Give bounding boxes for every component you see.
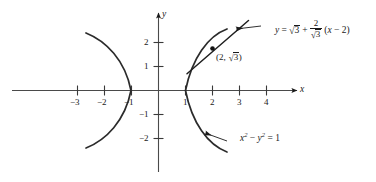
figure-canvas: −3 −2 −1 1 2 3 4 2 1 −1 −2 x y (2, √3) y… [0,0,376,182]
tangent-equals: = [282,25,287,35]
tangency-point-marker [210,46,215,51]
curve-minus: − [250,133,255,143]
curve-exponent-y: 2 [262,131,265,138]
point-radical-sign: √ [229,53,234,62]
y-tick-label--2: −2 [139,134,149,143]
tangent-frac-denominator: √3 [310,28,322,39]
x-tick-label--3: −3 [70,98,80,107]
point-x-value: 2, [219,52,226,62]
tangent-den-radical: √3 [311,29,321,39]
tangent-var-x: x [327,25,331,35]
x-tick-label-4: 4 [264,98,269,107]
tangent-lhs: y [275,25,279,35]
point-radical: √3 [229,52,239,62]
x-tick-label-2: 2 [210,98,215,107]
y-axis-label: y [162,10,166,20]
curve-equals-one: = 1 [267,133,279,143]
x-tick-label-3: 3 [237,98,242,107]
tangent-den-radicand: 3 [315,29,321,39]
tangent-radical-3: √3 [289,25,299,36]
tangent-equation-label: y = √3 + 2√3 (x − 2) [275,19,350,39]
tangent-paren-close: ) [346,25,349,35]
tangent-radicand: 3 [294,25,300,36]
y-tick-label-1: 1 [144,62,149,71]
tangent-fraction: 2√3 [310,19,322,39]
y-tick-label--1: −1 [139,110,149,119]
tangent-frac-numerator: 2 [310,19,322,28]
y-tick-label-2: 2 [144,38,149,47]
tangent-radical-sign: √ [289,27,294,37]
tangency-point-label: (2, √3) [216,52,242,62]
x-axis-label: x [300,85,304,95]
curve-exponent-x: 2 [244,131,247,138]
tangent-minus: − [334,25,339,35]
x-tick-label--2: −2 [97,98,107,107]
x-tick-label--1: −1 [124,98,134,107]
tangent-plus: + [302,25,307,35]
point-paren-close: ) [239,52,242,62]
tangent-den-radical-sign: √ [311,30,316,40]
x-tick-label-1: 1 [183,98,188,107]
curve-equation-label: x2 − y2 = 1 [240,132,280,144]
